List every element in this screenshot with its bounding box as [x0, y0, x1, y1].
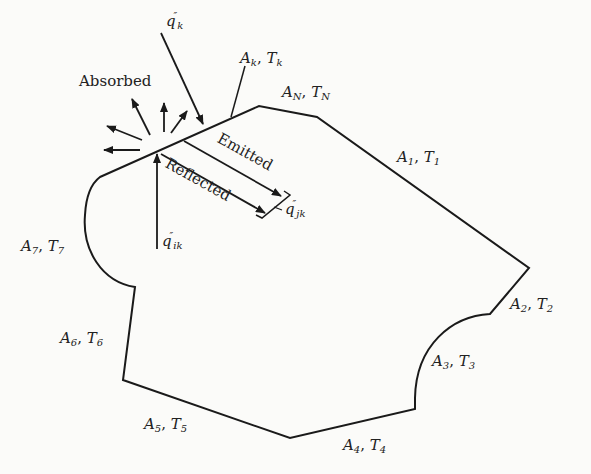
surface-N-label: AN, TN — [282, 85, 330, 102]
surface-1-label: A1, T1 — [397, 150, 440, 167]
flux-q-ik-label: q″ik — [162, 234, 183, 251]
enclosure-diagram: Absorbed Emitted Reflected q″k q″ik q″jk… — [0, 0, 591, 474]
flux-q-k-label: q″k — [166, 14, 183, 31]
surface-k-label: Ak, Tk — [240, 51, 283, 68]
surface-3-label: A3, T3 — [432, 354, 475, 371]
flux-q-jk-label: q″jk — [285, 202, 306, 219]
surface-2-label: A2, T2 — [510, 297, 553, 314]
absorbed-label: Absorbed — [79, 74, 151, 89]
surface-4-label: A4, T4 — [343, 438, 386, 455]
enclosure-boundary — [85, 106, 529, 438]
surface-6-label: A6, T6 — [60, 331, 103, 348]
surface-7-label: A7, T7 — [21, 239, 64, 256]
surface-5-label: A5, T5 — [144, 417, 187, 434]
